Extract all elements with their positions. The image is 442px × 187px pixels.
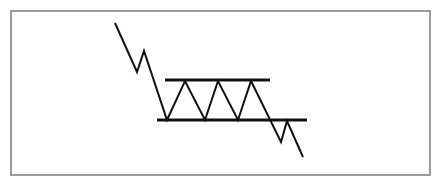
price-line	[115, 23, 303, 157]
diagram-frame	[11, 11, 430, 175]
chart-pattern-diagram	[0, 0, 442, 187]
